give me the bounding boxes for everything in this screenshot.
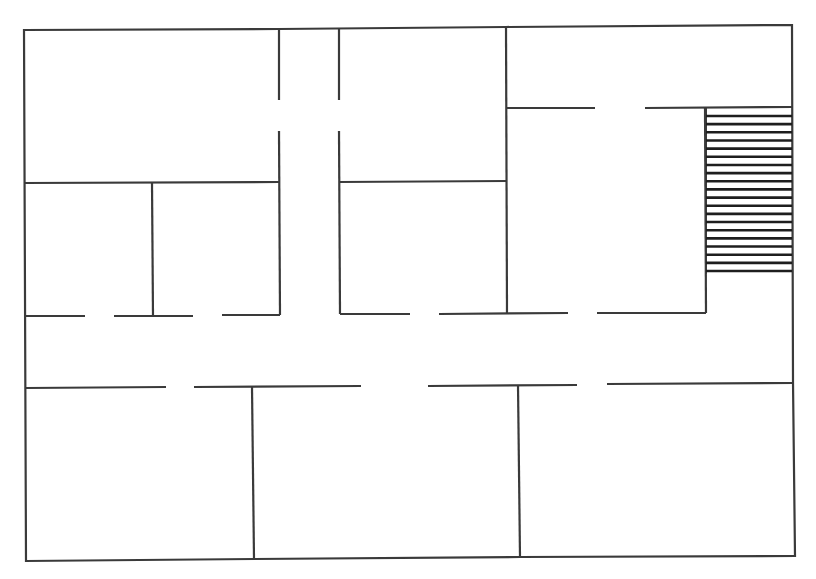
wall-bottom-right-divider — [518, 385, 520, 557]
floor-plan — [0, 0, 816, 579]
corridor-wall-left-lower — [279, 131, 280, 315]
corridor-bottom-wall-4 — [607, 383, 793, 384]
wall-small-room-divider — [152, 183, 153, 316]
corridor-bottom-wall-2 — [194, 386, 361, 387]
staircase — [706, 108, 792, 274]
outer-wall — [24, 25, 795, 561]
corridor-wall-right-lower — [339, 131, 340, 314]
wall-top-left-room-bottom — [24, 182, 279, 183]
corridor-bottom-wall-1 — [26, 387, 166, 388]
interior-walls — [24, 27, 793, 559]
outer-walls — [24, 25, 795, 561]
wall-top-center-room-bottom — [339, 181, 507, 182]
wall-top-right-room-bottom-b — [645, 107, 792, 108]
corridor-bottom-wall-3 — [428, 385, 577, 386]
wall-right-block-left — [506, 27, 507, 313]
wall-bottom-left-divider — [252, 387, 254, 559]
corridor-top-wall-5 — [439, 313, 568, 314]
